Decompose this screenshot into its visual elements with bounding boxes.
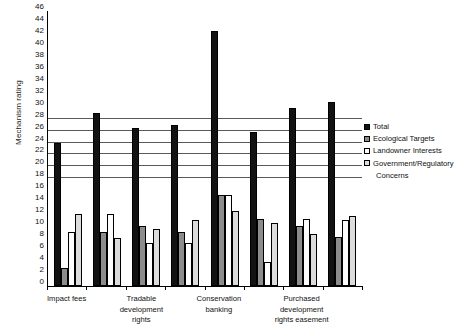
bar [100,232,107,286]
bar [132,128,139,286]
category-label [86,292,119,335]
bar-chart: Mechanism rating 46444240383634323028262… [0,0,473,335]
x-tick [205,286,206,290]
y-axis-title: Mechanism rating [14,53,23,173]
bar [335,237,342,286]
bar [232,211,239,286]
legend-label: Landowner Interests [373,146,442,155]
category-label-line: banking [197,305,242,316]
bar [250,132,257,286]
y-tick-label: 24 [26,135,44,143]
bar [93,113,100,286]
category-label-line: development [120,305,163,316]
x-tick [323,286,324,290]
legend-swatch-icon [364,160,370,166]
category-label [329,292,362,335]
category-label: Conservationbanking [197,292,242,335]
x-tick [244,286,245,290]
bar [107,214,114,286]
bar [328,102,335,286]
bar [257,219,264,286]
bar [153,229,160,286]
bar [310,234,317,286]
legend-label-continuation: Concerns [376,171,473,180]
bar-group [284,11,323,286]
y-axis-tick-labels: 4644424038363432302826242220181614121086… [26,7,44,288]
category-label-line: rights easement [275,315,329,326]
plot-area [47,11,362,287]
bar [349,216,356,286]
y-tick-label: 42 [26,27,44,35]
legend-swatch-icon [364,136,370,142]
y-tick-label: 2 [26,266,44,274]
category-label-line: Tradable [120,294,163,305]
category-label-line: Impact fees [47,294,86,305]
bar [342,220,349,286]
bar [192,220,199,286]
category-label-line: development [275,305,329,316]
legend-label: Total [373,122,389,131]
x-tick [86,286,87,290]
bar [139,226,146,286]
y-tick-label: 14 [26,194,44,202]
bar [178,232,185,286]
y-tick-label: 4 [26,254,44,262]
category-label: Impact fees [47,292,86,335]
y-tick-label: 20 [26,158,44,166]
category-label-line: Purchased [275,294,329,305]
bar-group [244,11,283,286]
y-tick-label: 34 [26,75,44,83]
bar [61,268,68,286]
y-tick-label: 36 [26,63,44,71]
bar [54,143,61,286]
y-tick-label: 38 [26,51,44,59]
x-axis-category-labels: Impact feesTradabledevelopmentrightsCons… [47,292,362,335]
category-label: Tradabledevelopmentrights [120,292,163,335]
bar [211,31,218,286]
x-tick [165,286,166,290]
chart-legend: TotalEcological TargetsLandowner Interes… [364,122,473,180]
bar [296,226,303,286]
y-tick-label: 46 [26,3,44,11]
bar [271,223,278,286]
x-axis-ticks [47,286,362,291]
bar [264,262,271,287]
x-tick [47,286,48,290]
bar-group [127,11,166,286]
y-tick-label: 32 [26,87,44,95]
category-label: Purchaseddevelopmentrights easement [275,292,329,335]
bar [218,195,225,286]
y-tick-label: 16 [26,182,44,190]
y-tick-label: 40 [26,39,44,47]
bar [114,238,121,286]
y-tick-label: 28 [26,111,44,119]
bar [146,243,153,286]
bar [68,232,75,286]
x-tick [362,286,363,290]
bar [303,219,310,286]
bar-group [48,11,87,286]
bar-groups [48,11,362,286]
y-tick-label: 10 [26,218,44,226]
x-tick [283,286,284,290]
bar [289,108,296,286]
bar-group [87,11,126,286]
y-tick-label: 22 [26,146,44,154]
category-label-line: Conservation [197,294,242,305]
category-label [163,292,196,335]
bar [185,243,192,286]
bar [75,214,82,286]
y-tick-label: 0 [26,278,44,286]
legend-swatch-icon [364,148,370,154]
legend-item[interactable]: Government/Regulatory [364,159,473,168]
category-label [241,292,274,335]
legend-label: Ecological Targets [373,134,435,143]
y-tick-label: 18 [26,170,44,178]
legend-item[interactable]: Landowner Interests [364,146,473,155]
y-tick-label: 44 [26,15,44,23]
bar [225,195,232,286]
legend-item[interactable]: Total [364,122,473,131]
y-tick-label: 8 [26,230,44,238]
legend-item[interactable]: Ecological Targets [364,134,473,143]
bar [171,125,178,286]
